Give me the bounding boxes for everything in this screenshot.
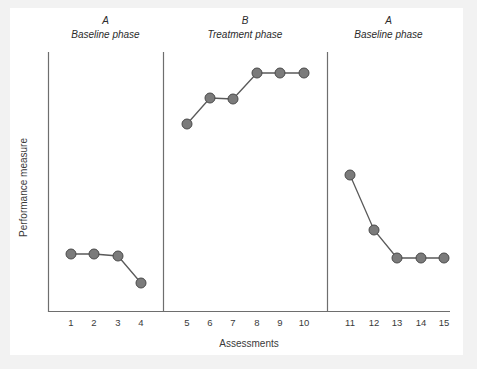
data-point-15 [439,253,449,263]
phase-letter: B [163,14,327,28]
series-line-phase-a1 [71,254,141,283]
x-tick-label-3: 3 [106,317,130,328]
x-tick-label-4: 4 [129,317,153,328]
series-line-phase-a2 [350,175,444,258]
data-point-9 [275,68,285,78]
data-point-12 [369,225,379,235]
x-axis-title: Assessments [48,338,450,349]
plot-canvas [0,0,477,369]
phase-header-treatment: B Treatment phase [163,14,327,41]
x-tick-label-13: 13 [385,317,409,328]
x-tick-label-2: 2 [82,317,106,328]
x-tick-label-6: 6 [198,317,222,328]
data-point-3 [113,251,123,261]
data-point-13 [392,253,402,263]
x-tick-label-5: 5 [175,317,199,328]
data-point-5 [182,119,192,129]
x-tick-label-8: 8 [245,317,269,328]
phase-header-baseline-2: A Baseline phase [327,14,450,41]
phase-label: Treatment phase [163,28,327,42]
ab-design-line-chart: A Baseline phase B Treatment phase A Bas… [0,0,477,369]
x-tick-label-12: 12 [362,317,386,328]
data-point-8 [252,68,262,78]
series-markers [66,68,449,288]
axes-group [48,52,450,312]
phase-label: Baseline phase [48,28,163,42]
x-tick-label-1: 1 [59,317,83,328]
data-point-11 [345,170,355,180]
data-point-14 [416,253,426,263]
phase-label: Baseline phase [327,28,450,42]
x-tick-label-11: 11 [338,317,362,328]
series-lines [71,73,444,283]
data-point-6 [205,93,215,103]
data-point-4 [136,278,146,288]
x-tick-label-15: 15 [432,317,456,328]
phase-header-baseline-1: A Baseline phase [48,14,163,41]
y-axis-title: Performance measure [18,103,29,273]
x-tick-label-14: 14 [409,317,433,328]
x-tick-label-10: 10 [292,317,316,328]
data-point-1 [66,249,76,259]
phase-letter: A [327,14,450,28]
data-point-2 [89,249,99,259]
phase-letter: A [48,14,163,28]
phase-divider-group [164,52,328,312]
data-point-7 [228,94,238,104]
x-tick-label-7: 7 [221,317,245,328]
x-tick-label-9: 9 [268,317,292,328]
data-point-10 [299,68,309,78]
